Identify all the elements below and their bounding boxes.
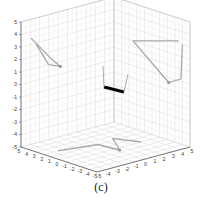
tick-label: 1: [14, 69, 17, 75]
tick-label: -4: [13, 131, 18, 137]
tick-label: 5: [18, 148, 21, 154]
tick-label: -3: [78, 168, 83, 174]
tick-label: -1: [134, 163, 139, 169]
tick-label: -4: [106, 171, 111, 177]
tick-label: 4: [25, 151, 28, 157]
tick-label: -1: [13, 94, 18, 100]
tick-label: 4: [181, 151, 184, 157]
tick-label: 0: [14, 81, 17, 87]
tick-label: -2: [13, 106, 18, 112]
tick-label: 1: [153, 158, 156, 164]
tick-label: 5: [14, 19, 17, 25]
tick-label: 0: [56, 161, 59, 167]
tick-label: 5: [191, 148, 194, 154]
tick-label: -5: [13, 144, 18, 150]
tick-label: 3: [14, 44, 17, 50]
tick-label: 4: [14, 31, 17, 37]
tick-label: 3: [33, 153, 36, 159]
joint-marker: [167, 81, 170, 84]
figure-caption: (c): [0, 180, 202, 195]
tick-label: -1: [62, 163, 67, 169]
tick-label: 2: [14, 56, 17, 62]
tick-label: 2: [163, 156, 166, 162]
tick-label: 3: [172, 153, 175, 159]
tick-label: 1: [48, 158, 51, 164]
tick-label: -2: [70, 166, 75, 172]
tick-label: -4: [85, 171, 90, 177]
tick-label: -3: [13, 119, 18, 125]
joint-marker: [59, 65, 62, 68]
tick-label: -2: [125, 166, 130, 172]
3d-plot: 543210-1-2-3-4-5543210-1-2-3-4-5-5-4-3-2…: [0, 0, 202, 205]
tick-label: -5: [97, 173, 102, 179]
tick-label: -3: [115, 168, 120, 174]
tick-label: 2: [40, 156, 43, 162]
joint-marker: [118, 148, 121, 151]
tick-label: 0: [144, 161, 147, 167]
